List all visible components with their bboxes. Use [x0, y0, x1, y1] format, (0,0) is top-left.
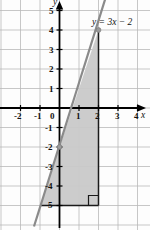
y-tick-label-1: 1	[49, 85, 54, 94]
y-tick-label-5: 5	[49, 7, 54, 16]
point-on-line-2-4	[96, 28, 101, 33]
x-tick-label-2: 2	[95, 112, 100, 121]
y-tick-label-4: 4	[49, 26, 54, 35]
y-axis-label: y	[53, 0, 57, 8]
x-tick-label-3: 3	[115, 112, 120, 121]
coordinate-plane	[0, 0, 150, 230]
y-tick-label--1: -1	[45, 124, 53, 133]
y-tick-label-2: 2	[49, 65, 54, 74]
y-tick-label--5: -5	[45, 201, 53, 210]
y-tick-label--2: -2	[45, 143, 53, 152]
x-tick-label--1: -1	[34, 112, 42, 121]
x-tick-label--2: -2	[14, 112, 22, 121]
y-tick-label--4: -4	[45, 182, 53, 191]
point-y-intercept	[57, 145, 62, 150]
equation-label: y = 3x − 2	[92, 18, 132, 28]
x-tick-label-1: 1	[76, 112, 81, 121]
y-tick-label--3: -3	[45, 163, 53, 172]
x-tick-label-4: 4	[134, 112, 139, 121]
graph-figure: y = 3x − 2 -2 -1 0 1 2 3 4 5 4 3 2 1 -1 …	[0, 0, 150, 230]
x-tick-label-0: 0	[50, 112, 55, 121]
y-tick-label-3: 3	[49, 46, 54, 55]
x-axis-label: x	[141, 111, 145, 121]
